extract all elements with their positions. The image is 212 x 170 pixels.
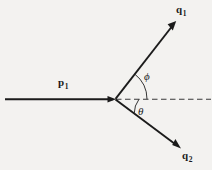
label-q1: q1 xyxy=(176,4,186,18)
label-q1-subscript: 1 xyxy=(182,9,186,18)
vector-p1-arrowhead xyxy=(108,96,117,102)
vector-q2 xyxy=(116,100,182,149)
vector-q2-arrowhead xyxy=(172,139,181,149)
scattering-diagram-figure: p1 q1 q2 ϕ θ xyxy=(0,0,212,170)
label-phi: ϕ xyxy=(144,71,150,82)
diagram-canvas xyxy=(0,0,212,170)
label-q2: q2 xyxy=(182,150,192,164)
vector-p1 xyxy=(5,96,116,102)
label-theta: θ xyxy=(138,106,143,117)
label-p1-subscript: 1 xyxy=(64,82,68,91)
vector-q2-shaft xyxy=(116,100,176,144)
label-q2-subscript: 2 xyxy=(188,155,192,164)
vector-q1-shaft xyxy=(116,27,172,99)
label-p1: p1 xyxy=(58,77,68,91)
vector-q1 xyxy=(116,21,177,99)
